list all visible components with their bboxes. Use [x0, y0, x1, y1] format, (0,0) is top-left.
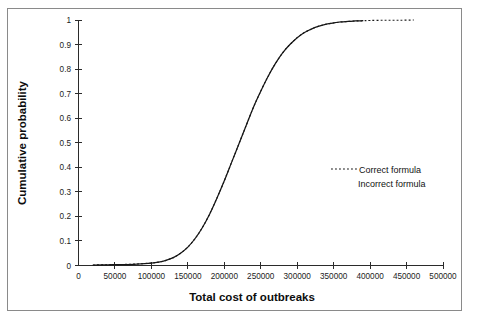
legend-label-correct-formula: Correct formula — [359, 165, 421, 175]
x-tick-label: 50000 — [104, 272, 127, 281]
x-tick-label: 400000 — [356, 272, 384, 281]
x-tick-label: 200000 — [211, 272, 239, 281]
x-tick-label: 300000 — [284, 272, 312, 281]
x-tick-label: 150000 — [174, 272, 202, 281]
y-tick-label: 0.7 — [60, 90, 72, 99]
legend-label-incorrect-formula: Incorrect formula — [358, 179, 426, 189]
y-tick-label: 0 — [66, 262, 71, 271]
y-tick-label: 0.6 — [60, 114, 72, 123]
y-tick-label: 0.9 — [60, 41, 72, 50]
axes-group — [79, 20, 444, 266]
x-axis-ticks: 0500001000001500002000002500003000003500… — [76, 262, 457, 281]
chart-canvas: 00.10.20.30.40.50.60.70.80.91 0500001000… — [0, 0, 477, 324]
x-tick-label: 250000 — [247, 272, 275, 281]
y-tick-label: 0.2 — [60, 212, 72, 221]
x-tick-label: 100000 — [138, 272, 166, 281]
y-tick-label: 0.4 — [60, 163, 72, 172]
x-tick-label: 0 — [76, 272, 81, 281]
y-tick-label: 0.5 — [60, 139, 72, 148]
y-tick-label: 0.3 — [60, 188, 72, 197]
series-line-correct-formula — [93, 20, 414, 265]
x-axis-title: Total cost of outbreaks — [189, 291, 315, 303]
y-axis-title: Cumulative probability — [16, 80, 28, 205]
x-tick-label: 450000 — [393, 272, 421, 281]
y-tick-label: 0.8 — [60, 65, 72, 74]
series-line-incorrect-formula — [93, 21, 363, 265]
data-series-group — [93, 20, 414, 265]
chart-legend: Correct formula Incorrect formula — [331, 165, 426, 189]
y-tick-label: 1 — [66, 16, 71, 25]
y-tick-label: 0.1 — [60, 237, 72, 246]
x-tick-label: 500000 — [429, 272, 457, 281]
x-tick-label: 350000 — [320, 272, 348, 281]
